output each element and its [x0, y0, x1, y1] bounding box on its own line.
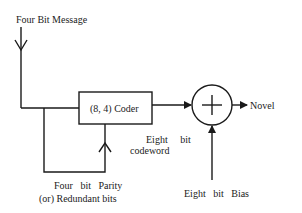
codeword-label-line1: Eight bit	[146, 134, 191, 145]
parity-label-line1: Four bit Parity	[54, 180, 122, 191]
coder-label: (8, 4) Coder	[90, 103, 139, 115]
output-novel-label: Novel	[250, 100, 275, 111]
adder-node	[192, 85, 232, 125]
coder-block: (8, 4) Coder	[79, 92, 152, 124]
parity-label-line2: (or) Redundant bits	[39, 193, 117, 205]
codeword-label-line2: codeword	[130, 145, 169, 156]
input-message-label: Four Bit Message	[16, 14, 88, 25]
bias-label: Eight bit Bias	[184, 188, 249, 199]
parity-feedback-loop	[44, 108, 111, 172]
input-arrow	[15, 27, 79, 108]
coder-block-diagram: Four Bit Message (8, 4) Coder Eight bit …	[0, 0, 302, 213]
